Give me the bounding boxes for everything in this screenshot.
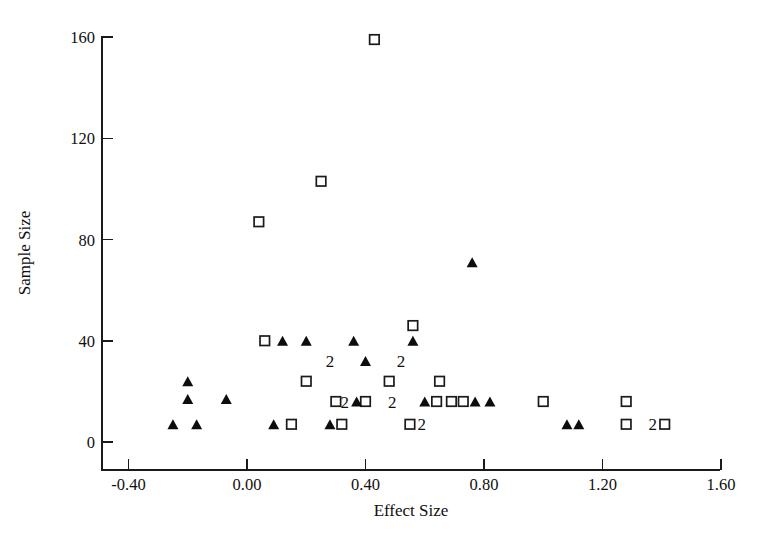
- overlap-count-label: 2: [418, 415, 427, 434]
- x-tick-label: 1.60: [707, 475, 736, 494]
- data-point-filled-triangle: [407, 336, 418, 346]
- overlap-count-label: 2: [326, 352, 335, 371]
- data-point-open-square: [384, 377, 394, 387]
- y-axis-ticks: 04080120160: [70, 28, 113, 452]
- data-point-filled-triangle: [182, 376, 193, 386]
- data-point-filled-triangle: [467, 257, 478, 267]
- y-tick-label: 120: [70, 129, 95, 148]
- overlap-count-label: 2: [649, 415, 658, 434]
- data-point-open-square: [337, 420, 347, 430]
- data-point-open-square: [361, 397, 371, 407]
- data-point-open-square: [331, 397, 341, 407]
- data-point-filled-triangle: [221, 394, 232, 404]
- data-point-filled-triangle: [191, 419, 202, 429]
- data-point-open-square: [435, 377, 445, 387]
- data-point-open-square: [408, 321, 418, 331]
- data-point-filled-triangle: [268, 419, 279, 429]
- data-markers-group: [167, 35, 669, 430]
- x-tick-label: 0.00: [233, 475, 262, 494]
- x-axis-ticks: -0.400.000.400.801.201.60: [111, 459, 735, 494]
- data-point-open-square: [316, 177, 326, 187]
- data-point-open-square: [447, 397, 457, 407]
- y-tick-label: 40: [79, 332, 96, 351]
- data-point-filled-triangle: [484, 396, 495, 406]
- data-point-open-square: [254, 217, 264, 227]
- data-point-open-square: [260, 336, 270, 346]
- overlap-count-labels: 222222: [326, 352, 657, 434]
- data-point-filled-triangle: [360, 356, 371, 366]
- scatter-plot-figure: 04080120160 -0.400.000.400.801.201.60 22…: [0, 0, 760, 548]
- data-point-filled-triangle: [348, 336, 359, 346]
- y-axis-title: Sample Size: [15, 211, 34, 296]
- x-axis-title: Effect Size: [374, 501, 449, 520]
- data-point-filled-triangle: [561, 419, 572, 429]
- data-point-open-square: [370, 35, 380, 45]
- overlap-count-label: 2: [397, 352, 406, 371]
- y-tick-label: 160: [70, 28, 95, 47]
- data-point-filled-triangle: [470, 396, 481, 406]
- data-point-filled-triangle: [167, 419, 178, 429]
- data-point-filled-triangle: [419, 396, 430, 406]
- data-point-open-square: [432, 397, 442, 407]
- data-point-open-square: [621, 420, 631, 430]
- data-point-filled-triangle: [301, 336, 312, 346]
- data-point-open-square: [302, 377, 312, 387]
- overlap-count-label: 2: [388, 393, 397, 412]
- data-point-filled-triangle: [277, 336, 288, 346]
- y-tick-label: 80: [79, 231, 96, 250]
- data-point-filled-triangle: [324, 419, 335, 429]
- y-tick-label: 0: [87, 433, 95, 452]
- data-point-filled-triangle: [182, 394, 193, 404]
- x-tick-label: 0.40: [351, 475, 380, 494]
- chart-canvas: 04080120160 -0.400.000.400.801.201.60 22…: [0, 0, 760, 548]
- data-point-filled-triangle: [573, 419, 584, 429]
- data-point-open-square: [539, 397, 549, 407]
- x-tick-label: 1.20: [588, 475, 617, 494]
- x-tick-label: -0.40: [111, 475, 145, 494]
- data-point-open-square: [287, 420, 297, 430]
- data-point-open-square: [459, 397, 469, 407]
- overlap-count-label: 2: [341, 393, 350, 412]
- data-point-open-square: [405, 420, 415, 430]
- data-point-open-square: [621, 397, 631, 407]
- x-tick-label: 0.80: [470, 475, 499, 494]
- data-point-open-square: [660, 420, 670, 430]
